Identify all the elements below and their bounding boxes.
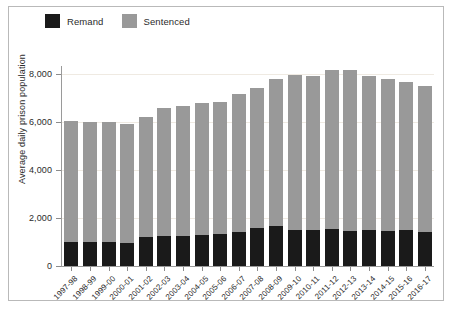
bar-2010-11 — [306, 76, 320, 266]
bar-segment-remand — [176, 236, 190, 266]
bar-segment-remand — [139, 237, 153, 266]
y-tick-mark — [56, 122, 61, 123]
y-tick-mark — [56, 218, 61, 219]
bar-segment-sentenced — [176, 106, 190, 236]
x-tick-mark — [313, 267, 314, 271]
bar-segment-sentenced — [64, 121, 78, 242]
y-tick-mark — [56, 266, 61, 267]
x-tick-mark — [146, 267, 147, 271]
gridline — [62, 122, 434, 123]
x-tick-mark — [127, 267, 128, 271]
bar-1997-98 — [64, 121, 78, 266]
bar-2005-06 — [213, 102, 227, 266]
x-tick-mark — [276, 267, 277, 271]
bar-segment-remand — [381, 231, 395, 266]
y-tick-label: 8,000 — [6, 69, 52, 79]
bar-segment-sentenced — [250, 88, 264, 227]
x-tick-mark — [369, 267, 370, 271]
bar-segment-sentenced — [343, 70, 357, 231]
bar-segment-remand — [195, 235, 209, 266]
x-tick-mark — [350, 267, 351, 271]
bar-segment-remand — [418, 232, 432, 266]
x-tick-mark — [202, 267, 203, 271]
x-tick-mark — [71, 267, 72, 271]
x-tick-mark — [239, 267, 240, 271]
x-tick-mark — [406, 267, 407, 271]
legend-item-remand: Remand — [45, 14, 104, 28]
bar-segment-sentenced — [381, 79, 395, 231]
x-tick-mark — [257, 267, 258, 271]
x-tick-mark — [90, 267, 91, 271]
gridline — [62, 218, 434, 219]
bar-segment-sentenced — [83, 122, 97, 242]
x-tick-mark — [220, 267, 221, 271]
gridline — [62, 170, 434, 171]
bar-segment-sentenced — [288, 75, 302, 230]
bar-segment-remand — [213, 234, 227, 266]
legend-item-sentenced: Sentenced — [122, 14, 190, 28]
legend-label-sentenced: Sentenced — [144, 16, 190, 27]
bar-segment-sentenced — [232, 94, 246, 232]
bar-segment-sentenced — [325, 70, 339, 228]
y-tick-mark — [56, 170, 61, 171]
y-tick-label: 4,000 — [6, 165, 52, 175]
bar-segment-sentenced — [102, 122, 116, 242]
bar-2004-05 — [195, 103, 209, 266]
bar-2015-16 — [399, 82, 413, 266]
bar-2014-15 — [381, 79, 395, 266]
bar-2006-07 — [232, 94, 246, 266]
bar-segment-remand — [306, 230, 320, 266]
y-tick-mark — [56, 74, 61, 75]
bar-segment-remand — [157, 236, 171, 266]
x-tick-mark — [425, 267, 426, 271]
plot-area — [62, 66, 434, 266]
y-tick-label: 2,000 — [6, 213, 52, 223]
bar-2012-13 — [343, 70, 357, 266]
bar-segment-remand — [64, 242, 78, 266]
x-tick-mark — [332, 267, 333, 271]
legend-swatch-sentenced-icon — [122, 14, 137, 28]
bar-2011-12 — [325, 70, 339, 266]
bar-segment-remand — [269, 226, 283, 266]
bar-segment-remand — [399, 230, 413, 266]
gridline — [62, 74, 434, 75]
y-tick-label: 0 — [6, 261, 52, 271]
y-tick-label: 6,000 — [6, 117, 52, 127]
bar-segment-remand — [362, 230, 376, 266]
chart-legend: Remand Sentenced — [45, 12, 208, 30]
bar-2002-03 — [157, 108, 171, 266]
bar-1999-00 — [102, 122, 116, 266]
bar-segment-remand — [250, 228, 264, 266]
bar-segment-remand — [102, 242, 116, 266]
bar-2001-02 — [139, 117, 153, 266]
bar-segment-sentenced — [362, 76, 376, 230]
bar-2016-17 — [418, 86, 432, 266]
bar-segment-sentenced — [399, 82, 413, 230]
bar-segment-remand — [83, 242, 97, 266]
bar-segment-sentenced — [139, 117, 153, 237]
bar-segment-sentenced — [195, 103, 209, 235]
bar-segment-sentenced — [269, 79, 283, 227]
bar-segment-remand — [288, 230, 302, 266]
bar-segment-sentenced — [157, 108, 171, 236]
bar-2003-04 — [176, 106, 190, 266]
bar-segment-remand — [343, 231, 357, 266]
bar-2013-14 — [362, 76, 376, 266]
x-tick-mark — [295, 267, 296, 271]
bar-segment-sentenced — [120, 124, 134, 243]
bar-segment-remand — [232, 232, 246, 266]
bar-2008-09 — [269, 79, 283, 266]
bar-1998-99 — [83, 122, 97, 266]
bar-segment-sentenced — [418, 86, 432, 232]
x-tick-mark — [183, 267, 184, 271]
x-tick-mark — [164, 267, 165, 271]
x-axis-line — [61, 266, 434, 267]
x-tick-mark — [388, 267, 389, 271]
bar-segment-sentenced — [306, 76, 320, 230]
bar-2007-08 — [250, 88, 264, 266]
legend-swatch-remand-icon — [45, 14, 60, 28]
bar-segment-sentenced — [213, 102, 227, 234]
bar-segment-remand — [325, 229, 339, 266]
x-tick-mark — [109, 267, 110, 271]
chart-figure: Remand Sentenced Average daily prison po… — [0, 0, 454, 309]
